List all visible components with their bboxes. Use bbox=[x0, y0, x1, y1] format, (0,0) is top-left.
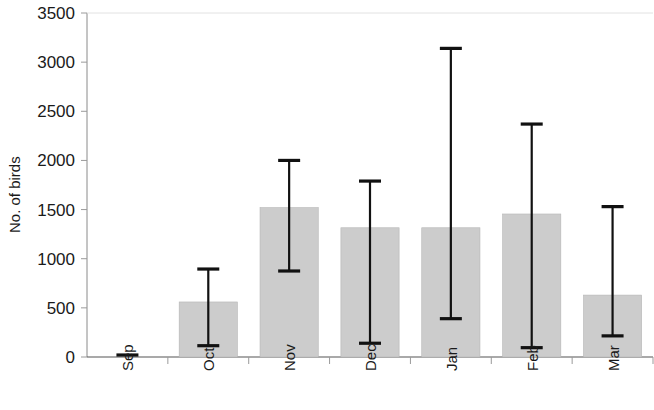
chart-canvas: 0500100015002000250030003500 SepOctNovDe… bbox=[0, 0, 654, 410]
y-tick-label: 500 bbox=[47, 299, 75, 318]
x-tick-label: Oct bbox=[200, 347, 217, 371]
y-tick-label: 2500 bbox=[37, 102, 75, 121]
x-tick-label: Sep bbox=[119, 344, 136, 371]
x-tick-label: Nov bbox=[281, 344, 298, 371]
y-axis-title: No. of birds bbox=[6, 156, 23, 233]
bar-chart: 0500100015002000250030003500 SepOctNovDe… bbox=[0, 0, 654, 410]
y-tick-label: 1500 bbox=[37, 201, 75, 220]
x-tick-label: Dec bbox=[362, 344, 379, 371]
x-tick-label: Feb bbox=[524, 345, 541, 371]
y-tick-label: 3000 bbox=[37, 53, 75, 72]
y-tick-label: 2000 bbox=[37, 151, 75, 170]
y-tick-label: 3500 bbox=[37, 4, 75, 23]
y-tick-label: 1000 bbox=[37, 250, 75, 269]
x-tick-label: Mar bbox=[605, 345, 622, 371]
y-tick-label: 0 bbox=[66, 348, 75, 367]
x-tick-label: Jan bbox=[443, 347, 460, 371]
